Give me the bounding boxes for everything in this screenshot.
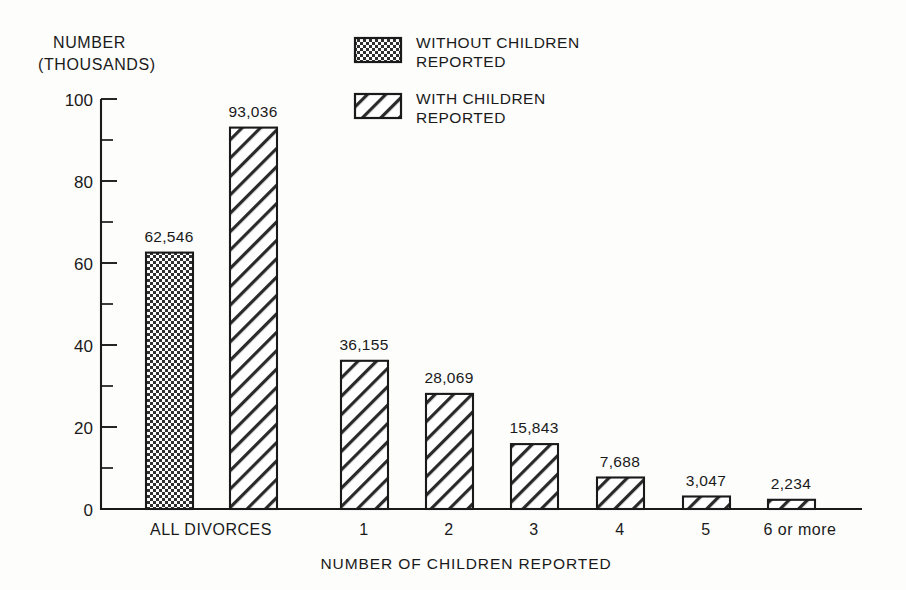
x-category-3: 3 xyxy=(529,521,538,538)
y-tick-label-60: 60 xyxy=(74,255,93,274)
y-tick-label-40: 40 xyxy=(74,337,93,356)
bar-label-2234: 2,234 xyxy=(771,475,811,492)
y-tick-label-100: 100 xyxy=(65,91,93,110)
bar-3-children xyxy=(511,444,558,509)
y-axis-tick-labels: 100 80 60 40 20 0 xyxy=(65,91,93,520)
bar-label-93036: 93,036 xyxy=(228,103,277,120)
legend-swatch-with-children xyxy=(355,94,401,118)
legend-item-with-children: WITH CHILDREN REPORTED xyxy=(355,90,546,126)
x-axis-title: NUMBER OF CHILDREN REPORTED xyxy=(321,555,612,572)
chart-canvas: NUMBER (THOUSANDS) WITHOUT CHILDREN REPO… xyxy=(0,0,906,590)
bar-1-child xyxy=(341,361,388,509)
x-category-all-divorces: ALL DIVORCES xyxy=(150,521,272,538)
x-category-6-or-more: 6 or more xyxy=(764,521,837,538)
y-tick-label-20: 20 xyxy=(74,419,93,438)
y-axis-minor-ticks xyxy=(101,140,113,468)
bar-label-3047: 3,047 xyxy=(686,472,726,489)
x-category-2: 2 xyxy=(444,521,453,538)
y-tick-label-80: 80 xyxy=(74,173,93,192)
bars-group: 62,546 93,036 36,155 28,069 15,843 7,688… xyxy=(144,103,815,509)
bar-label-7688: 7,688 xyxy=(600,453,640,470)
legend-label-with-children-line1: WITH CHILDREN xyxy=(416,90,546,107)
legend-label-without-children-line1: WITHOUT CHILDREN xyxy=(416,34,580,51)
bar-4-children xyxy=(597,478,644,510)
x-category-1: 1 xyxy=(359,521,368,538)
y-axis-title-line1: NUMBER xyxy=(53,34,126,51)
bar-label-62546: 62,546 xyxy=(144,228,193,245)
bar-all-divorces-without-children xyxy=(146,253,193,509)
bar-chart-figure: NUMBER (THOUSANDS) WITHOUT CHILDREN REPO… xyxy=(0,0,906,590)
bar-6-or-more-children xyxy=(768,500,815,509)
legend-label-with-children-line2: REPORTED xyxy=(416,109,506,126)
bar-2-children xyxy=(426,394,473,509)
bar-label-36155: 36,155 xyxy=(339,336,388,353)
x-category-5: 5 xyxy=(701,521,710,538)
bar-all-divorces-with-children xyxy=(230,128,277,509)
legend-label-without-children-line2: REPORTED xyxy=(416,53,506,70)
bar-5-children xyxy=(683,497,730,510)
x-axis-category-labels: ALL DIVORCES 1 2 3 4 5 6 or more xyxy=(150,521,836,538)
bar-label-28069: 28,069 xyxy=(424,369,473,386)
axis-lines xyxy=(101,99,862,509)
legend-swatch-without-children xyxy=(355,38,401,62)
bar-label-15843: 15,843 xyxy=(509,419,558,436)
y-axis-title-line2: (THOUSANDS) xyxy=(38,56,156,73)
legend: WITHOUT CHILDREN REPORTED WITH CHILDREN … xyxy=(355,34,580,126)
x-category-4: 4 xyxy=(615,521,624,538)
legend-item-without-children: WITHOUT CHILDREN REPORTED xyxy=(355,34,580,70)
y-tick-label-0: 0 xyxy=(84,501,93,520)
